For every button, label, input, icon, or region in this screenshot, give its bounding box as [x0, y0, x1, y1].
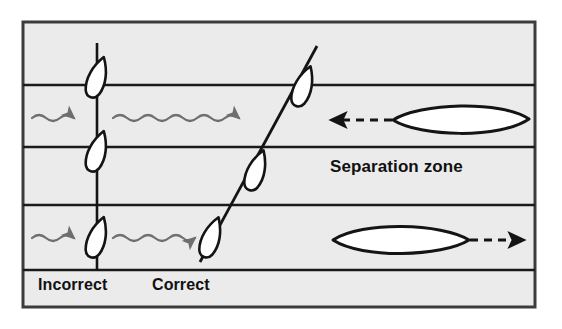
- label-correct: Correct: [152, 276, 210, 294]
- figure-canvas: Incorrect Correct Separation zone: [0, 0, 562, 329]
- label-incorrect: Incorrect: [38, 276, 107, 294]
- traffic-vessel-lower: [333, 226, 469, 253]
- label-separation-zone: Separation zone: [330, 157, 463, 177]
